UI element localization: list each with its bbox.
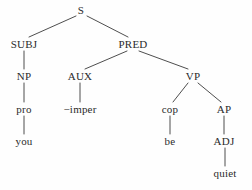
- tree-node-np: NP: [17, 70, 31, 82]
- tree-node-vp: VP: [186, 70, 200, 82]
- tree-node-imper: −imper: [63, 103, 96, 115]
- tree-edge-s-to-pred: [87, 16, 128, 37]
- tree-node-cop: cop: [162, 103, 178, 115]
- tree-node-s: S: [78, 4, 84, 16]
- tree-node-be: be: [165, 135, 176, 147]
- tree-edge-pred-to-vp: [139, 51, 188, 69]
- syntax-tree-figure: S SUBJ PRED NP AUX VP pro −imper cop AP …: [0, 0, 252, 190]
- tree-edge-layer: [0, 0, 252, 190]
- tree-node-pro: pro: [16, 103, 31, 115]
- tree-node-pred: PRED: [119, 38, 148, 50]
- tree-edge-vp-to-cop: [173, 83, 188, 102]
- tree-node-ap: AP: [217, 103, 231, 115]
- tree-edge-s-to-subj: [29, 16, 76, 37]
- tree-node-quiet: quiet: [214, 167, 237, 179]
- tree-node-subj: SUBJ: [11, 38, 37, 50]
- tree-edge-pred-to-aux: [85, 51, 127, 69]
- tree-node-aux: AUX: [68, 70, 92, 82]
- tree-node-you: you: [15, 135, 32, 147]
- tree-edge-vp-to-ap: [198, 83, 221, 102]
- tree-node-adj: ADJ: [214, 135, 235, 147]
